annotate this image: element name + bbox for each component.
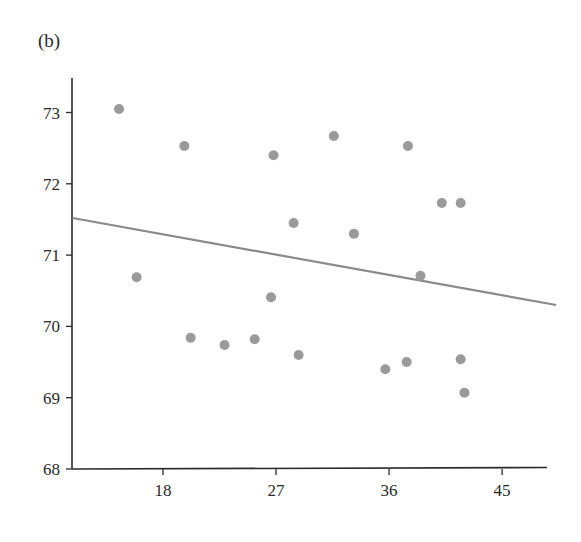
y-tick-label: 68 (43, 460, 60, 479)
x-tick-label: 45 (494, 481, 511, 500)
y-tick-label: 73 (43, 104, 60, 123)
data-point (132, 272, 142, 282)
y-tick-label: 71 (43, 246, 60, 265)
data-point (459, 388, 469, 398)
data-point (220, 340, 230, 350)
x-axis (72, 468, 547, 470)
data-point (415, 271, 425, 281)
data-point (456, 354, 466, 364)
data-point (269, 150, 279, 160)
data-points (114, 104, 469, 398)
x-tick-label: 36 (381, 481, 398, 500)
data-point (179, 141, 189, 151)
data-point (349, 229, 359, 239)
y-tick-label: 70 (43, 317, 60, 336)
y-tick-label: 69 (43, 389, 60, 408)
data-point (329, 131, 339, 141)
data-point (266, 292, 276, 302)
x-tick-label: 27 (268, 481, 286, 500)
data-point (289, 218, 299, 228)
x-tick-label: 18 (155, 481, 172, 500)
data-point (403, 141, 413, 151)
data-point (456, 198, 466, 208)
data-point (402, 357, 412, 367)
data-point (186, 333, 196, 343)
regression-line (73, 218, 557, 305)
data-point (437, 198, 447, 208)
data-point (380, 364, 390, 374)
fit-line (73, 218, 557, 305)
data-point (294, 350, 304, 360)
data-point (114, 104, 124, 114)
y-tick-label: 72 (43, 175, 60, 194)
scatter-chart: 68697071727318273645 (0, 0, 581, 542)
data-point (250, 334, 260, 344)
